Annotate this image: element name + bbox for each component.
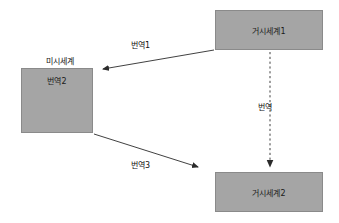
node-micro-world[interactable]: 번역2 <box>21 68 93 133</box>
node-macro-world-2-label: 거시세계2 <box>252 187 285 198</box>
diagram-canvas: 거시세계1 거시세계2 미시세계 번역2 번역1 번역 번역3 <box>0 0 339 223</box>
edge-label-translate-3: 번역3 <box>131 159 150 170</box>
node-macro-world-1[interactable]: 거시세계1 <box>215 10 323 50</box>
edge-line-translate-1 <box>103 50 214 69</box>
node-micro-world-caption: 미시세계 <box>30 55 90 66</box>
edge-label-translate-1: 번역1 <box>131 39 150 50</box>
node-micro-world-label: 번역2 <box>22 75 92 86</box>
node-macro-world-2[interactable]: 거시세계2 <box>215 172 323 212</box>
edge-label-translate-middle: 번역 <box>258 101 272 112</box>
node-macro-world-1-label: 거시세계1 <box>252 25 285 36</box>
